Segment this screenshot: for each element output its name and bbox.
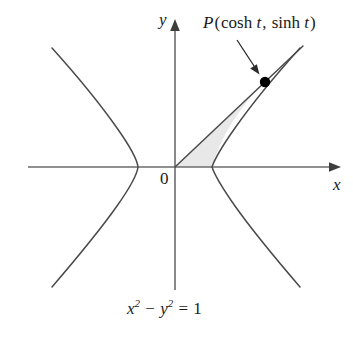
hyperbola-figure: P(cosh t, sinh t) y x 0 x2 − y2 = 1: [0, 0, 353, 344]
equation-var-x: x: [127, 299, 135, 318]
point-p-marker: [260, 77, 270, 87]
ray-origin-to-point: [175, 46, 303, 167]
label-pointer-line: [237, 40, 256, 69]
x-axis-arrowhead: [329, 162, 341, 172]
point-p-coord-y: sinh t: [272, 13, 309, 32]
equation-caption: x2 − y2 = 1: [127, 298, 202, 317]
equation-rhs-value: 1: [193, 299, 202, 318]
y-axis-arrowhead: [170, 19, 180, 31]
point-p-comma: ,: [261, 13, 267, 32]
equation-minus-sign: −: [140, 299, 160, 318]
equation-var-y: y: [160, 299, 168, 318]
label-pointer-arrowhead: [250, 64, 259, 74]
x-axis-label: x: [333, 176, 341, 193]
figure-canvas: [0, 0, 353, 344]
point-p-paren-open: (: [213, 13, 221, 32]
point-p-label: P(cosh t, sinh t): [203, 14, 317, 31]
point-p-name: P: [203, 13, 213, 32]
origin-label: 0: [160, 170, 169, 187]
point-p-paren-close: ): [309, 13, 317, 32]
point-p-coord-x: cosh t: [221, 13, 261, 32]
y-axis-label: y: [159, 11, 167, 28]
equation-equals-sign: =: [173, 299, 193, 318]
